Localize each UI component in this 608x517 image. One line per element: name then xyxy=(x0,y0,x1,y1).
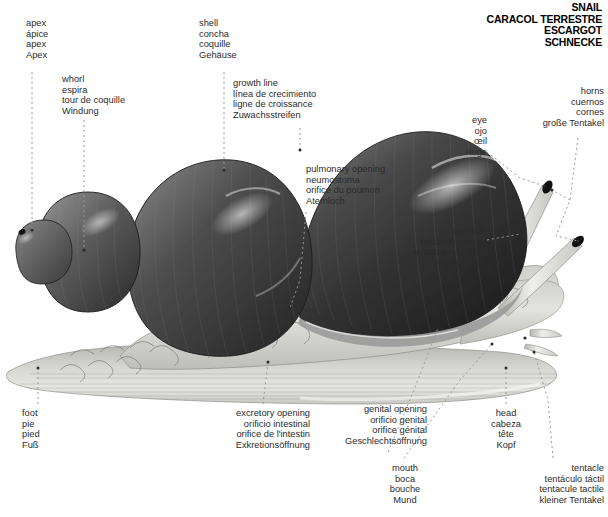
label-horns: horns cuernos cornes große Tentakel xyxy=(543,86,604,128)
label-eye-fr: œil xyxy=(465,136,487,147)
label-eye: eye ojo œil Auge xyxy=(465,115,487,157)
label-shell-de: Gehäuse xyxy=(199,50,237,61)
leader-horns xyxy=(556,138,578,241)
label-tentacle: tentacle tentáculo táctil tentacule tact… xyxy=(539,463,604,505)
label-apex-en: apex xyxy=(26,18,48,29)
label-apex: apex ápice apex Apex xyxy=(26,18,48,60)
label-foot: foot pie pied Fuß xyxy=(22,408,40,450)
label-eyestalk-fr: tentacule oculaire xyxy=(413,247,486,258)
label-eyestalk-en: eyestalk xyxy=(413,226,486,237)
leader-excretory xyxy=(263,362,268,404)
label-tentacle-es: tentáculo táctil xyxy=(539,474,604,485)
label-pulmonary-fr: orifice du poumon xyxy=(306,185,385,196)
leader-eye xyxy=(487,152,544,186)
label-growth-fr: ligne de croissance xyxy=(233,99,316,110)
label-horns-es: cuernos xyxy=(543,97,604,108)
label-excretory-es: orificio intestinal xyxy=(195,419,310,430)
label-foot-es: pie xyxy=(22,419,40,430)
label-mouth-es: boca xyxy=(378,474,432,485)
label-apex-es: ápice xyxy=(26,29,48,40)
label-foot-de: Fuß xyxy=(22,440,40,451)
label-shell-es: concha xyxy=(199,29,237,40)
label-apex-fr: apex xyxy=(26,39,48,50)
label-shell: shell concha coquille Gehäuse xyxy=(199,18,237,60)
label-excretory-opening: excretory opening orificio intestinal or… xyxy=(195,408,310,450)
label-tentacle-en: tentacle xyxy=(539,463,604,474)
label-horns-fr: cornes xyxy=(543,107,604,118)
label-growth-line: growth line línea de crecimiento ligne d… xyxy=(233,78,316,120)
label-whorl-fr: tour de coquille xyxy=(62,95,125,106)
title-line-en: SNAIL xyxy=(487,2,602,14)
label-foot-en: foot xyxy=(22,408,40,419)
label-mouth-en: mouth xyxy=(378,463,432,474)
label-growth-en: growth line xyxy=(233,78,316,89)
label-horns-de: große Tentakel xyxy=(543,118,604,129)
leader-pulmonary xyxy=(290,212,306,308)
label-whorl-en: whorl xyxy=(62,74,125,85)
leader-eyestalk xyxy=(487,234,520,240)
label-shell-en: shell xyxy=(199,18,237,29)
label-head-fr: tête xyxy=(478,429,534,440)
label-genital-opening: genital opening orificio genital orifice… xyxy=(322,404,427,446)
label-eye-de: Auge xyxy=(465,147,487,158)
label-eyestalk-de: Augenträger xyxy=(413,258,486,269)
label-tentacle-de: kleiner Tentakel xyxy=(539,495,604,506)
label-excretory-en: excretory opening xyxy=(195,408,310,419)
label-genital-fr: orifice génital xyxy=(322,425,427,436)
label-pulmonary-en: pulmonary opening xyxy=(306,164,385,175)
label-head: head cabeza tête Kopf xyxy=(478,408,534,450)
illustration-page: SNAIL CARACOL TERRESTRE ESCARGOT SCHNECK… xyxy=(0,0,608,517)
label-head-en: head xyxy=(478,408,534,419)
label-excretory-de: Exkretionsöffnung xyxy=(195,440,310,451)
label-genital-de: Geschlechtsöffnung xyxy=(322,436,427,447)
label-pulmonary-de: Atemloch xyxy=(306,196,385,207)
label-growth-es: línea de crecimiento xyxy=(233,89,316,100)
label-whorl: whorl espira tour de coquille Windung xyxy=(62,74,125,116)
label-mouth: mouth boca bouche Mund xyxy=(378,463,432,505)
label-genital-es: orificio genital xyxy=(322,415,427,426)
label-head-es: cabeza xyxy=(478,419,534,430)
label-eye-es: ojo xyxy=(465,126,487,137)
label-mouth-de: Mund xyxy=(378,495,432,506)
label-horns-en: horns xyxy=(543,86,604,97)
label-apex-de: Apex xyxy=(26,50,48,61)
label-pulmonary-opening: pulmonary opening neumostoma orifice du … xyxy=(306,164,385,206)
label-whorl-de: Windung xyxy=(62,106,125,117)
label-head-de: Kopf xyxy=(478,440,534,451)
label-foot-fr: pied xyxy=(22,429,40,440)
label-eye-en: eye xyxy=(465,115,487,126)
label-shell-fr: coquille xyxy=(199,39,237,50)
leader-tentacle xyxy=(534,352,553,458)
label-pulmonary-es: neumostoma xyxy=(306,175,385,186)
label-eyestalk: eyestalk tentáculo ocular tentacule ocul… xyxy=(413,226,486,268)
leader-horns-2 xyxy=(552,190,570,200)
title-block: SNAIL CARACOL TERRESTRE ESCARGOT SCHNECK… xyxy=(487,2,602,48)
label-tentacle-fr: tentacule tactile xyxy=(539,484,604,495)
label-excretory-fr: orifice de l'intestin xyxy=(195,429,310,440)
label-growth-de: Zuwachsstreifen xyxy=(233,110,316,121)
label-eyestalk-es: tentáculo ocular xyxy=(413,237,486,248)
label-genital-en: genital opening xyxy=(322,404,427,415)
label-mouth-fr: bouche xyxy=(378,484,432,495)
title-line-de: SCHNECKE xyxy=(487,37,602,49)
label-whorl-es: espira xyxy=(62,85,125,96)
